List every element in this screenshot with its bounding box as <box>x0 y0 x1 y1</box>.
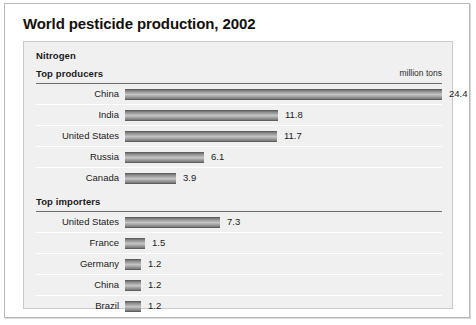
section-top-producers: Top producers million tons China24.4Indi… <box>36 68 442 188</box>
bar <box>125 131 277 142</box>
bar-row-label: France <box>36 233 119 253</box>
chart-panel-inner: Nitrogen Top producers million tons Chin… <box>36 50 442 316</box>
bar <box>125 238 145 249</box>
bar <box>125 259 141 270</box>
section-title: Top producers <box>36 68 103 79</box>
bar-row-label: Brazil <box>36 296 119 316</box>
bar-row-label: Russia <box>36 147 119 167</box>
bar <box>125 110 278 121</box>
bar <box>125 280 141 291</box>
bar-track: 3.9 <box>125 168 442 188</box>
page-title: World pesticide production, 2002 <box>23 15 255 32</box>
bar-row: France1.5 <box>36 233 442 254</box>
bar-value-label: 1.2 <box>148 296 161 316</box>
bar-value-label: 1.2 <box>148 275 161 295</box>
bar-value-label: 7.3 <box>227 212 240 232</box>
bar-row: Canada3.9 <box>36 168 442 188</box>
section-header: Top producers million tons <box>36 68 442 81</box>
bar <box>125 152 204 163</box>
bar-value-label: 1.2 <box>148 254 161 274</box>
bar-row: China1.2 <box>36 275 442 296</box>
bar-row: United States7.3 <box>36 212 442 233</box>
bar-track: 1.5 <box>125 233 442 253</box>
bar-track: 11.7 <box>125 126 442 146</box>
bar-track: 1.2 <box>125 296 442 316</box>
bar-row: China24.4 <box>36 84 442 105</box>
bar-track: 6.1 <box>125 147 442 167</box>
section-title: Top importers <box>36 196 100 207</box>
bar-value-label: 11.7 <box>284 126 302 146</box>
bar <box>125 301 141 312</box>
bar-row-label: United States <box>36 212 119 232</box>
bar-track: 24.4 <box>125 84 442 104</box>
bar-track: 1.2 <box>125 275 442 295</box>
bar-row: India11.8 <box>36 105 442 126</box>
bar-row: United States11.7 <box>36 126 442 147</box>
section-top-importers: Top importers United States7.3France1.5G… <box>36 196 442 316</box>
unit-label: million tons <box>399 68 442 78</box>
bar <box>125 173 176 184</box>
bar-track: 1.2 <box>125 254 442 274</box>
bar-row-label: China <box>36 84 119 104</box>
bar-row: Germany1.2 <box>36 254 442 275</box>
bar-row: Brazil1.2 <box>36 296 442 316</box>
bar <box>125 89 442 100</box>
bar-value-label: 11.8 <box>285 105 303 125</box>
bar-row-label: India <box>36 105 119 125</box>
bar-row-label: United States <box>36 126 119 146</box>
bar-value-label: 6.1 <box>211 147 224 167</box>
bar-row-label: China <box>36 275 119 295</box>
bar-row: Russia6.1 <box>36 147 442 168</box>
section-header: Top importers <box>36 196 442 209</box>
bar-track: 11.8 <box>125 105 442 125</box>
bar-rows-producers: China24.4India11.8United States11.7Russi… <box>36 84 442 188</box>
bar-value-label: 3.9 <box>183 168 196 188</box>
bar-row-label: Germany <box>36 254 119 274</box>
bar-value-label: 24.4 <box>449 84 468 104</box>
chart-panel: Nitrogen Top producers million tons Chin… <box>23 41 453 309</box>
chart-frame: World pesticide production, 2002 Nitroge… <box>4 3 470 318</box>
bar <box>125 217 220 228</box>
bar-row-label: Canada <box>36 168 119 188</box>
bar-track: 7.3 <box>125 212 442 232</box>
section-spacer <box>36 188 442 196</box>
group-title-nitrogen: Nitrogen <box>36 50 442 61</box>
bar-rows-importers: United States7.3France1.5Germany1.2China… <box>36 212 442 316</box>
bar-value-label: 1.5 <box>152 233 165 253</box>
